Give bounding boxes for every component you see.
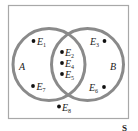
element-index: 1 xyxy=(43,42,46,48)
element-dot xyxy=(57,105,61,109)
element-dot xyxy=(103,39,107,43)
element-index: 5 xyxy=(71,75,74,81)
element-dot xyxy=(60,61,64,65)
element-letter: E xyxy=(88,82,95,93)
element-letter: E xyxy=(64,69,71,80)
set-a-label: A xyxy=(18,61,26,72)
element-e7: E7 xyxy=(31,81,46,93)
element-dot xyxy=(60,50,64,54)
element-letter: E xyxy=(36,81,43,92)
element-index: 7 xyxy=(43,87,46,93)
element-letter: E xyxy=(64,47,71,58)
venn-diagram: A B E1 E7 E2 E4 E5 E3 E6 E8 S xyxy=(0,0,138,131)
svg-text:E8: E8 xyxy=(61,102,71,114)
svg-text:E1: E1 xyxy=(36,36,46,48)
element-letter: E xyxy=(36,36,43,47)
element-index: 4 xyxy=(71,64,74,70)
element-e6: E6 xyxy=(88,82,106,94)
sample-space-label: S xyxy=(122,123,127,131)
svg-text:E7: E7 xyxy=(36,81,46,93)
set-b-label: B xyxy=(110,61,116,72)
element-e1: E1 xyxy=(32,36,47,48)
element-index: 8 xyxy=(68,108,71,114)
element-index: 6 xyxy=(95,88,98,94)
element-dot xyxy=(32,39,36,43)
element-dot xyxy=(60,72,64,76)
element-letter: E xyxy=(89,36,96,47)
element-dot xyxy=(31,84,35,88)
svg-text:E6: E6 xyxy=(88,82,98,94)
element-index: 3 xyxy=(96,42,99,48)
svg-text:E5: E5 xyxy=(64,69,74,81)
svg-text:E3: E3 xyxy=(89,36,99,48)
element-e5: E5 xyxy=(60,69,74,81)
element-index: 2 xyxy=(71,53,74,59)
element-dot xyxy=(102,85,106,89)
element-letter: E xyxy=(64,58,71,69)
element-e3: E3 xyxy=(89,36,106,48)
element-e8: E8 xyxy=(57,102,71,114)
element-letter: E xyxy=(61,102,68,113)
